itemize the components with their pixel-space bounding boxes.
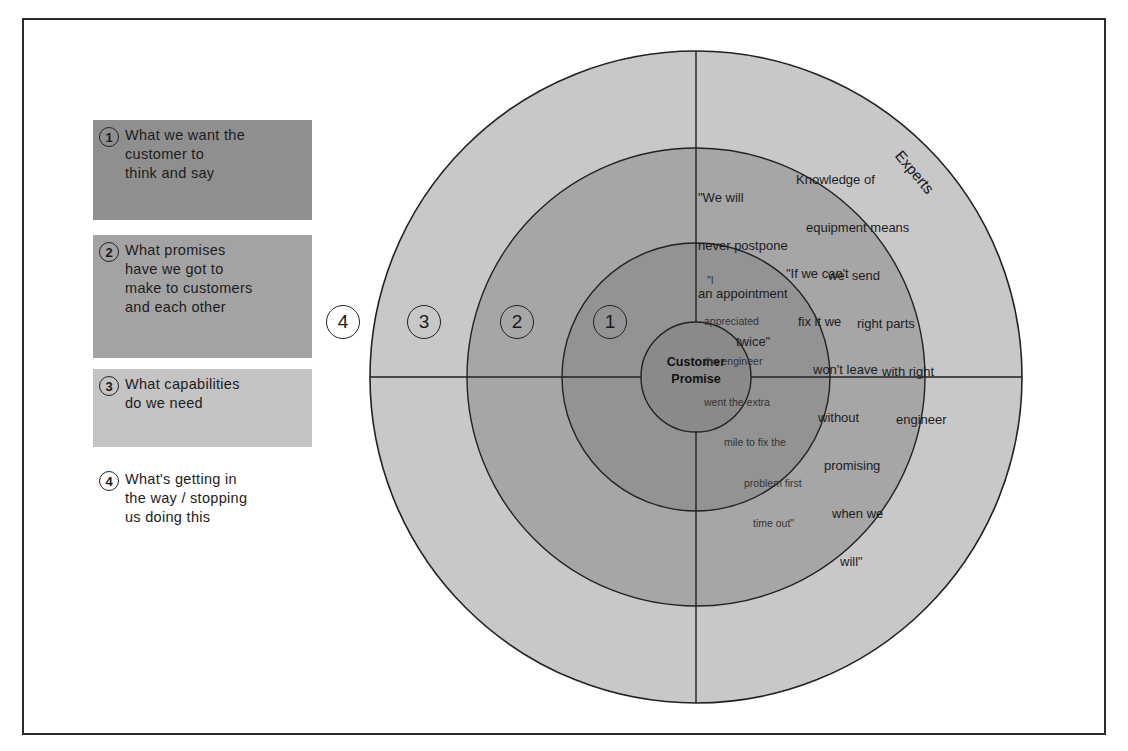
ring-number-4: 4: [326, 305, 360, 339]
ring-number-2: 2: [500, 305, 534, 339]
concentric-rings: [0, 0, 1128, 751]
ring-number-1: 1: [593, 305, 627, 339]
ring-number-3: 3: [407, 305, 441, 339]
quote-appreciated: "I appreciated the engineer went the ext…: [704, 247, 802, 544]
